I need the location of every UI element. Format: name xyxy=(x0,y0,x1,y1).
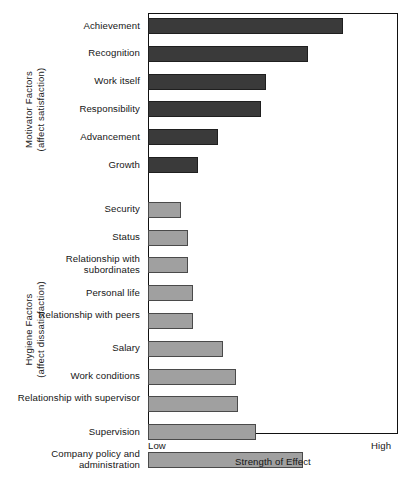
bar-security xyxy=(148,202,181,218)
category-label-relationship-with-subordinates: Relationship with subordinates xyxy=(14,254,140,276)
category-label-supervision: Supervision xyxy=(14,427,140,438)
category-label-status: Status xyxy=(14,232,140,243)
bar-responsibility xyxy=(148,101,261,117)
category-label-work-itself: Work itself xyxy=(14,76,140,87)
category-label-salary: Salary xyxy=(14,343,140,354)
category-label-work-conditions: Work conditions xyxy=(14,371,140,382)
category-label-achievement: Achievement xyxy=(14,21,140,32)
bar-recognition xyxy=(148,46,308,62)
bar-personal-life xyxy=(148,285,193,301)
x-axis-high-label: High xyxy=(371,440,391,451)
bar-status xyxy=(148,230,188,246)
bar-salary xyxy=(148,341,223,357)
bar-relationship-with-supervisor xyxy=(148,396,238,412)
bar-advancement xyxy=(148,129,218,145)
bar-growth xyxy=(148,157,198,173)
bars-layer xyxy=(148,13,398,434)
bar-achievement xyxy=(148,18,343,34)
chart-figure: Motivator Factors (affect satisfaction) … xyxy=(0,0,420,480)
category-label-relationship-with-supervisor: Relationship with supervisor xyxy=(14,393,140,404)
category-label-responsibility: Responsibility xyxy=(14,104,140,115)
category-label-recognition: Recognition xyxy=(14,48,140,59)
category-label-company-policy-and-administration: Company policy and administration xyxy=(14,449,140,471)
category-label-relationship-with-peers: Relationship with peers xyxy=(14,310,140,321)
bar-relationship-with-peers xyxy=(148,313,193,329)
bar-work-itself xyxy=(148,74,266,90)
x-axis-low-label: Low xyxy=(148,440,166,451)
x-axis-title: Strength of Effect xyxy=(148,456,398,467)
bar-supervision xyxy=(148,424,256,440)
category-label-personal-life: Personal life xyxy=(14,288,140,299)
category-label-security: Security xyxy=(14,204,140,215)
category-label-growth: Growth xyxy=(14,160,140,171)
bar-work-conditions xyxy=(148,369,236,385)
bar-relationship-with-subordinates xyxy=(148,257,188,273)
category-label-column: AchievementRecognitionWork itselfRespons… xyxy=(14,13,144,434)
category-label-advancement: Advancement xyxy=(14,132,140,143)
